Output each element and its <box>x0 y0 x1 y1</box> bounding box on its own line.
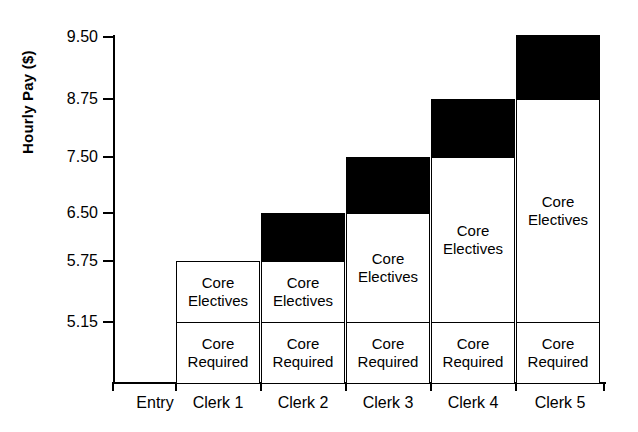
bar-segment-raise-increment[interactable] <box>431 99 515 158</box>
bar-segment-core-required[interactable]: Core Required <box>176 322 260 384</box>
bar-segment-core-required[interactable]: Core Required <box>431 322 515 384</box>
bar-segment-raise-increment[interactable] <box>346 157 430 214</box>
y-tick-label-wrap: 5.15 <box>38 314 98 330</box>
x-category-label-clerk-2: Clerk 2 <box>261 393 345 413</box>
bar-segment-label: Core Required <box>347 335 429 371</box>
bar-segment-core-electives[interactable]: Core Electives <box>346 213 430 323</box>
chart-container: Hourly Pay ($) 9.50 8.75 7.50 6.50 5.75 … <box>0 0 638 432</box>
x-category-label-clerk-4: Clerk 4 <box>431 393 515 413</box>
bar-segment-label: Core Required <box>177 335 259 371</box>
bar-column-clerk-3[interactable]: Core Electives Core Required <box>346 30 430 384</box>
y-tick-label-950: 9.50 <box>42 29 98 45</box>
plot-area: Core Electives Core Required Core Electi… <box>113 30 606 384</box>
bar-segment-core-electives[interactable]: Core Electives <box>261 261 345 323</box>
bar-segment-core-electives[interactable]: Core Electives <box>431 157 515 323</box>
bar-column-clerk-1[interactable]: Core Electives Core Required <box>176 30 260 384</box>
bar-column-clerk-5[interactable]: Core Electives Core Required <box>516 30 600 384</box>
bar-segment-label: Core Electives <box>347 250 429 286</box>
bar-segment-core-required[interactable]: Core Required <box>261 322 345 384</box>
bar-segment-core-required[interactable]: Core Required <box>346 322 430 384</box>
bar-segment-label: Core Electives <box>517 193 599 229</box>
y-axis-title: Hourly Pay ($) <box>16 0 40 154</box>
bar-segment-label: Core Electives <box>177 274 259 310</box>
y-tick-label-wrap: 9.50 <box>38 29 98 45</box>
bar-segment-label: Core Electives <box>262 274 344 310</box>
bar-column-clerk-2[interactable]: Core Electives Core Required <box>261 30 345 384</box>
bar-column-clerk-4[interactable]: Core Electives Core Required <box>431 30 515 384</box>
y-tick-label-575: 5.75 <box>42 253 98 269</box>
y-tick-label-wrap: 7.50 <box>38 149 98 165</box>
bar-segment-label: Core Electives <box>432 222 514 258</box>
bar-segment-raise-increment[interactable] <box>516 35 600 100</box>
y-tick-label-875: 8.75 <box>42 91 98 107</box>
bar-segment-raise-increment[interactable] <box>261 213 345 262</box>
bar-segment-label: Core Required <box>262 335 344 371</box>
y-tick-label-wrap: 6.50 <box>38 205 98 221</box>
bar-segment-label: Core Required <box>517 335 599 371</box>
y-tick-label-650: 6.50 <box>42 205 98 221</box>
bar-segment-label: Core Required <box>432 335 514 371</box>
y-tick-label-wrap: 8.75 <box>38 91 98 107</box>
y-tick-label-750: 7.50 <box>42 149 98 165</box>
x-category-label-clerk-5: Clerk 5 <box>518 393 602 413</box>
bar-segment-core-electives[interactable]: Core Electives <box>516 99 600 323</box>
y-tick-label-515: 5.15 <box>42 314 98 330</box>
bar-segment-core-electives[interactable]: Core Electives <box>176 261 260 323</box>
x-category-label-clerk-3: Clerk 3 <box>346 393 430 413</box>
bar-segment-core-required[interactable]: Core Required <box>516 322 600 384</box>
y-tick-label-wrap: 5.75 <box>38 253 98 269</box>
x-category-label-clerk-1: Clerk 1 <box>176 393 260 413</box>
